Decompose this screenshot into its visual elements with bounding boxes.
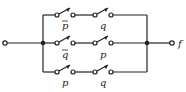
right-junction [145, 41, 150, 46]
branch-2 [43, 36, 147, 45]
label-p: p [100, 49, 107, 60]
branch-1 [43, 8, 147, 17]
label-p: p [62, 77, 69, 88]
input-terminal [3, 41, 7, 45]
label-q-bar: q [62, 49, 68, 60]
left-junction [41, 41, 46, 46]
label-q: q [100, 20, 106, 31]
branch-3 [43, 65, 147, 74]
label-q: q [100, 77, 106, 88]
output-terminal [170, 41, 174, 45]
circuit-diagram: p q q p p q f [0, 0, 186, 92]
label-p-bar: p [62, 20, 69, 31]
output-label: f [177, 38, 184, 49]
